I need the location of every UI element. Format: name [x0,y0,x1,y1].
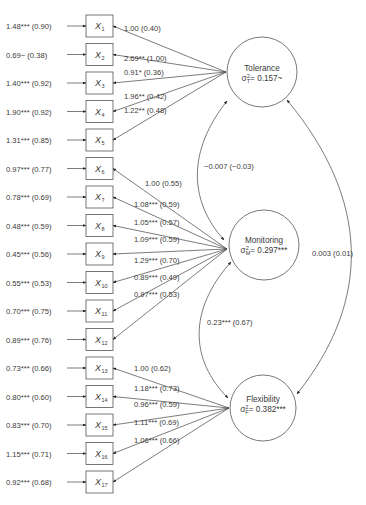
residual-label: 1.40*** (0.92) [6,79,52,88]
residual-label: 0.48*** (0.59) [6,222,52,231]
loading-label: 0.96*** (0.59) [134,400,180,409]
loading-label: 1.22** (0.48) [124,106,167,115]
residual-label: 1.48*** (0.90) [6,22,52,31]
loading-label: 1.96** (0.42) [124,92,167,101]
loading-label: 1.00 (0.62) [134,364,171,373]
loading-arrow-x9 [113,249,227,254]
loading-label: 0.97*** (0.53) [134,290,180,299]
residual-label: 0.73*** (0.66) [6,364,52,373]
factor-flexibility: Flexibility σ2F= 0.382*** [230,375,296,441]
residual-label: 0.89*** (0.76) [6,336,52,345]
factor-variance-monitoring: σ2M= 0.297*** [241,245,289,256]
loading-label: 1.11*** (0.69) [134,418,179,427]
factor-name-flexibility: Flexibility [246,395,281,404]
residual-label: 1.15*** (0.71) [6,450,52,459]
loading-label: 1.29*** (0.70) [134,256,180,265]
loading-label: 1.08*** (0.59) [134,200,180,209]
factor-name-tolerance: Tolerance [244,64,280,73]
cov-label-monitoring-flexibility: 0.23*** (0.67) [207,318,253,327]
loading-label: 1.05*** (0.57) [134,218,180,227]
loading-label: 1.18*** (0.73) [134,384,180,393]
residual-label: 0.78*** (0.69) [6,193,52,202]
factor-variance-flexibility: σ2F= 0.382*** [240,404,286,415]
sem-diagram: 1.48*** (0.90)X10.69~ (0.38)X21.40*** (0… [0,0,366,505]
indicator-group: 1.48*** (0.90)X10.69~ (0.38)X21.40*** (0… [6,15,113,493]
cov-arc-monitoring-flexibility [199,262,231,398]
residual-label: 0.80*** (0.60) [6,393,52,402]
loading-label: 0.89*** (0.49) [134,273,180,282]
loading-label: 1.09*** (0.59) [134,235,180,244]
cov-label-tolerance-monitoring: −0.007 (−0.03) [204,162,254,171]
factor-circle-monitoring [229,210,299,280]
residual-label: 0.55*** (0.53) [6,279,52,288]
residual-label: 1.90*** (0.92) [6,108,52,117]
loading-label: 1.00 (0.55) [145,179,182,188]
residual-label: 0.97*** (0.77) [6,165,52,174]
loading-label: 1.06*** (0.66) [134,436,180,445]
residual-label: 0.92*** (0.68) [6,478,52,487]
loading-paths: 1.00 (0.40)2.69** (1.00)0.91* (0.36)1.96… [113,24,229,482]
factor-tolerance: Tolerance σ2T= 0.157~ [227,37,297,107]
factor-name-monitoring: Monitoring [245,236,284,245]
loading-label: 1.00 (0.40) [124,24,161,33]
residual-label: 1.31*** (0.85) [6,136,52,145]
loading-label: 2.69** (1.00) [124,54,167,63]
residual-label: 0.70*** (0.75) [6,307,52,316]
factor-variance-tolerance: σ2T= 0.157~ [242,73,283,84]
loading-label: 0.91* (0.36) [124,68,164,77]
factor-monitoring: Monitoring σ2M= 0.297*** [229,210,299,280]
loading-arrow-x16 [113,408,229,454]
residual-label: 0.69~ (0.38) [6,51,48,60]
residual-label: 0.83*** (0.70) [6,421,52,430]
residual-label: 0.45*** (0.56) [6,250,52,259]
cov-label-tolerance-flexibility: 0.003 (0.01) [312,249,353,258]
